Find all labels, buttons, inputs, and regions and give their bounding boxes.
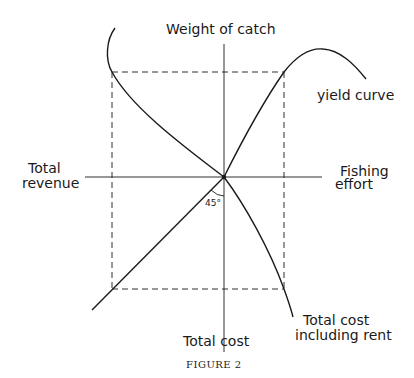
label-total-revenue-line2: revenue (22, 175, 79, 191)
label-total-cost-including-rent-line1: Total cost (302, 312, 370, 328)
yield-curve (224, 49, 366, 177)
total-revenue-curve (107, 28, 224, 177)
label-yield-curve: yield curve (317, 87, 394, 103)
label-total-revenue-line1: Total (27, 160, 61, 176)
fishery-economics-diagram: Weight of catch Total revenue Fishing ef… (0, 0, 414, 378)
total-cost-curve (224, 177, 293, 317)
origin-point (222, 175, 226, 179)
label-fishing-effort-line2: effort (335, 176, 374, 192)
label-weight-of-catch: Weight of catch (166, 21, 276, 37)
angle-arc (211, 190, 224, 196)
label-total-cost: Total cost (182, 333, 250, 349)
label-angle: 45° (205, 198, 221, 208)
label-total-cost-including-rent-line2: including rent (295, 327, 392, 343)
figure-caption: FIGURE 2 (186, 359, 242, 370)
